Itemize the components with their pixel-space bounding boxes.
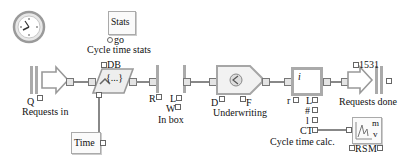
plot-graph-icon: [355, 120, 373, 140]
v-label: v: [373, 129, 378, 140]
wire: [98, 92, 100, 132]
plot-s-label: S: [362, 143, 368, 154]
clock-icon[interactable]: [12, 10, 46, 44]
r-lower-port[interactable]: [293, 97, 299, 103]
w-port[interactable]: [175, 104, 181, 110]
plot-r-label: R: [355, 143, 362, 154]
info-block[interactable]: i: [291, 67, 323, 96]
underwriting-block[interactable]: [216, 65, 264, 95]
info-inner-label: i: [298, 71, 301, 82]
q-port[interactable]: [37, 95, 43, 101]
r-lower-label: r: [287, 95, 290, 106]
requests-in-caption: Requests in: [22, 106, 68, 117]
time-label: Time: [74, 137, 95, 148]
plot-block[interactable]: m v: [352, 117, 382, 144]
r-port[interactable]: [156, 94, 162, 100]
stats-block[interactable]: Stats: [108, 11, 136, 35]
stats-caption: Cycle time stats: [87, 44, 151, 55]
l-port[interactable]: [176, 95, 182, 101]
requests-in-output-connector[interactable]: [66, 78, 74, 86]
requests-done-caption: Requests done: [339, 96, 397, 107]
d-port[interactable]: [219, 96, 225, 102]
info-output-connector[interactable]: [323, 78, 331, 86]
in-box-block[interactable]: [156, 65, 186, 93]
time-block[interactable]: Time: [71, 132, 101, 154]
in-box-output-connector[interactable]: [183, 78, 191, 86]
info-l-port[interactable]: [312, 97, 318, 103]
db-bottom-port[interactable]: [96, 92, 102, 98]
go-port[interactable]: [107, 37, 113, 43]
db-input-connector[interactable]: [88, 78, 96, 86]
db-inner-label: {...}: [106, 72, 123, 83]
underwriting-caption: Underwriting: [213, 107, 267, 118]
requests-done-right-port[interactable]: [386, 78, 392, 84]
requests-done-block[interactable]: [346, 66, 386, 96]
underwriting-output-connector[interactable]: [262, 78, 270, 86]
ct-label: CT: [300, 125, 313, 136]
m-label: m: [372, 118, 379, 129]
wire: [318, 129, 346, 131]
info-lower-l-port[interactable]: [312, 117, 318, 123]
r-label: R: [149, 93, 156, 104]
cycle-time-calc-caption: Cycle time calc.: [270, 136, 335, 147]
wire: [74, 81, 89, 83]
time-output-port[interactable]: [100, 140, 106, 146]
plot-m-port[interactable]: [377, 145, 383, 151]
in-box-caption: In box: [158, 114, 184, 125]
hash-port[interactable]: [312, 107, 318, 113]
wire: [191, 81, 211, 83]
stats-label: Stats: [111, 17, 129, 28]
requests-done-count: 1531: [359, 59, 379, 70]
plot-m-label: M: [368, 143, 377, 154]
